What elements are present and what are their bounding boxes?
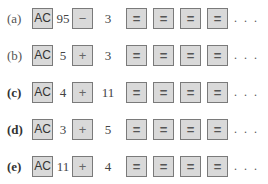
second-operand: 11: [100, 85, 116, 101]
all-clear-key[interactable]: AC: [32, 45, 53, 66]
first-operand: 11: [55, 159, 71, 175]
second-operand: 3: [100, 11, 116, 27]
problem-label: (d): [7, 122, 23, 138]
equals-key[interactable]: =: [180, 45, 201, 66]
all-clear-key[interactable]: AC: [32, 119, 53, 140]
equals-key[interactable]: =: [126, 8, 147, 29]
all-clear-key[interactable]: AC: [32, 156, 53, 177]
equals-key[interactable]: =: [126, 119, 147, 140]
ellipsis: . . .: [234, 48, 259, 63]
problem-row-a: (a) AC 95 − 3 = = = = . . .: [0, 8, 268, 32]
second-operand: 3: [100, 48, 116, 64]
ellipsis: . . .: [234, 85, 259, 100]
problem-label: (b): [7, 48, 22, 64]
equals-key[interactable]: =: [180, 156, 201, 177]
second-operand: 5: [100, 122, 116, 138]
first-operand: 3: [55, 122, 71, 138]
equals-key[interactable]: =: [126, 45, 147, 66]
operator-key[interactable]: −: [72, 8, 93, 29]
second-operand: 4: [100, 159, 116, 175]
problem-label: (c): [7, 85, 21, 101]
ellipsis: . . .: [234, 11, 259, 26]
equals-key[interactable]: =: [207, 156, 228, 177]
equals-key[interactable]: =: [126, 82, 147, 103]
operator-key[interactable]: +: [72, 119, 93, 140]
equals-key[interactable]: =: [180, 82, 201, 103]
all-clear-key[interactable]: AC: [32, 8, 53, 29]
operator-key[interactable]: +: [72, 82, 93, 103]
equals-key[interactable]: =: [126, 156, 147, 177]
problem-label: (e): [7, 159, 21, 175]
equals-key[interactable]: =: [207, 82, 228, 103]
ellipsis: . . .: [234, 159, 259, 174]
equals-key[interactable]: =: [207, 119, 228, 140]
operator-key[interactable]: +: [72, 156, 93, 177]
equals-key[interactable]: =: [180, 119, 201, 140]
equals-key[interactable]: =: [207, 45, 228, 66]
ellipsis: . . .: [234, 122, 259, 137]
equals-key[interactable]: =: [153, 82, 174, 103]
problem-row-b: (b) AC 5 + 3 = = = = . . .: [0, 45, 268, 69]
equals-key[interactable]: =: [180, 8, 201, 29]
all-clear-key[interactable]: AC: [32, 82, 53, 103]
first-operand: 5: [55, 48, 71, 64]
problem-row-c: (c) AC 4 + 11 = = = = . . .: [0, 82, 268, 106]
equals-key[interactable]: =: [153, 8, 174, 29]
problem-row-d: (d) AC 3 + 5 = = = = . . .: [0, 119, 268, 143]
first-operand: 4: [55, 85, 71, 101]
operator-key[interactable]: +: [72, 45, 93, 66]
equals-key[interactable]: =: [153, 45, 174, 66]
equals-key[interactable]: =: [153, 156, 174, 177]
problem-row-e: (e) AC 11 + 4 = = = = . . .: [0, 156, 268, 180]
equals-key[interactable]: =: [153, 119, 174, 140]
equals-key[interactable]: =: [207, 8, 228, 29]
first-operand: 95: [55, 11, 71, 27]
problem-label: (a): [7, 11, 21, 27]
